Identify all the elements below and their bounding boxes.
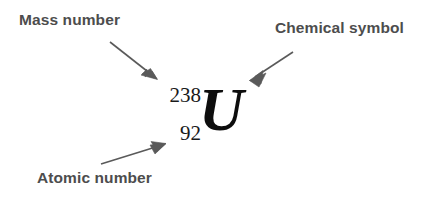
mass-number-arrow (110, 42, 158, 80)
mass-number-value: 238 (155, 85, 201, 106)
chemical-symbol-arrow (250, 52, 294, 87)
chemical-symbol-label: Chemical symbol (275, 20, 404, 36)
nuclide-notation-figure: Mass number Chemical symbol Atomic numbe… (0, 0, 442, 198)
atomic-number-value: 92 (155, 123, 201, 144)
mass-number-label: Mass number (19, 12, 120, 28)
element-symbol: U (199, 78, 244, 140)
atomic-number-label: Atomic number (37, 170, 152, 186)
nuclide-notation: 238 92 U (155, 78, 255, 150)
